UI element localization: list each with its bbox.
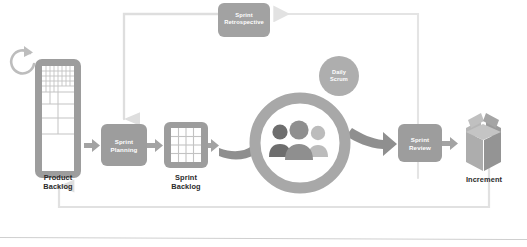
sprint-planning-node[interactable] bbox=[101, 124, 147, 166]
sprint-review-node[interactable] bbox=[398, 124, 442, 162]
product-backlog-node[interactable] bbox=[35, 59, 81, 178]
scrum-framework-diagram: Sprint Planning bbox=[0, 0, 527, 247]
daily-scrum-node[interactable] bbox=[319, 56, 359, 96]
baseline-rule bbox=[0, 238, 527, 240]
sprint-cycle-node[interactable] bbox=[249, 92, 351, 194]
increment-node[interactable] bbox=[464, 112, 504, 174]
sprint-backlog-node[interactable] bbox=[164, 122, 208, 168]
sprint-retrospective-node[interactable] bbox=[218, 3, 270, 37]
